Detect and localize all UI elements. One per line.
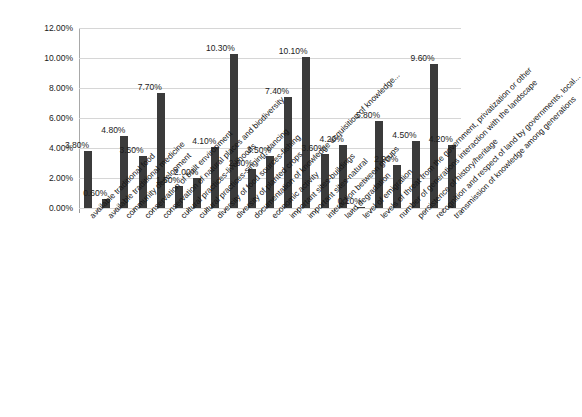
bar-value-label: 7.70%	[138, 82, 162, 92]
bar-value-label: 10.30%	[206, 43, 235, 53]
bar-slot: 3.80%	[79, 28, 97, 208]
y-axis-tick-label: 10.00%	[3, 54, 73, 63]
y-axis-tick-label: 4.00%	[3, 144, 73, 153]
bar-value-label: 9.60%	[411, 53, 435, 63]
x-axis-tick-mark	[79, 209, 80, 213]
y-axis-tick-label: 12.00%	[3, 24, 73, 33]
y-axis-tick-label: 2.00%	[3, 174, 73, 183]
bar-value-label: 4.50%	[392, 130, 416, 140]
bar-value-label: 4.80%	[101, 125, 125, 135]
bar-value-label: 3.80%	[65, 140, 89, 150]
bar[interactable]	[84, 151, 92, 208]
bar-value-label: 7.40%	[265, 86, 289, 96]
y-axis-tick-label: 0.00%	[3, 204, 73, 213]
y-axis-tick-label: 8.00%	[3, 84, 73, 93]
bar-value-label: 3.50%	[120, 145, 144, 155]
bar-value-label: 10.10%	[279, 46, 308, 56]
y-axis-tick-label: 6.00%	[3, 114, 73, 123]
bar-slot: 0.60%	[97, 28, 115, 208]
